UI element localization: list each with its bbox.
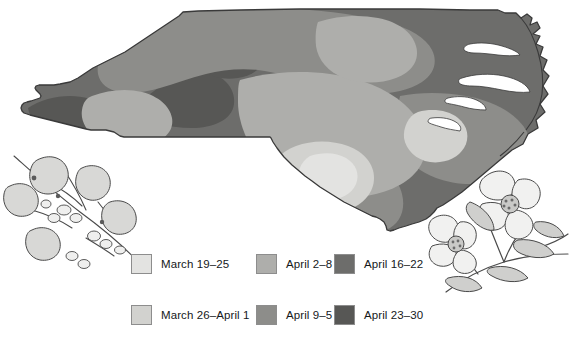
legend-item-march-26-april-1: March 26–April 1 [131, 305, 250, 325]
legend-item-april-16-22: April 16–22 [334, 254, 423, 274]
blossom [115, 246, 126, 254]
blossom-center [501, 195, 519, 213]
leaf [30, 157, 69, 194]
blossom [48, 214, 60, 223]
legend-item-april-9-15: April 9–5 [256, 305, 332, 325]
leaf [487, 266, 528, 281]
legend-swatch [131, 254, 152, 274]
leaf [102, 201, 137, 235]
blossom [66, 252, 78, 261]
legend-label: March 19–25 [161, 258, 229, 270]
leaf [26, 228, 61, 261]
leaf [76, 166, 111, 201]
legend-label: March 26–April 1 [161, 309, 250, 321]
blossom [78, 260, 90, 269]
legend-label: April 16–22 [364, 258, 423, 270]
legend-label: April 2–8 [286, 258, 332, 270]
legend-item-march-19-25: March 19–25 [131, 254, 229, 274]
legend-swatch [256, 254, 277, 274]
legend-label: April 23–30 [364, 309, 423, 321]
legend-label: April 9–5 [286, 309, 332, 321]
blossom [100, 240, 112, 249]
legend-swatch [334, 305, 355, 325]
blossom [41, 200, 51, 208]
leaf [514, 240, 555, 258]
legend-swatch [334, 254, 355, 274]
legend-item-april-2-8: April 2–8 [256, 254, 332, 274]
legend-item-april-23-30: April 23–30 [334, 305, 423, 325]
blossom-center [448, 236, 464, 252]
spring-arrival-map-page: March 19–25 March 26–April 1 April 2–8 A… [0, 0, 573, 345]
legend-swatch [131, 305, 152, 325]
leaf [4, 184, 39, 217]
blossom [70, 214, 82, 223]
map-legend: March 19–25 March 26–April 1 April 2–8 A… [131, 250, 441, 338]
blossom [88, 231, 101, 241]
band-march-19-25 [298, 153, 357, 200]
leaf [446, 276, 482, 291]
dogwood-branch-illustration [418, 162, 573, 297]
blossom [57, 205, 71, 215]
legend-swatch [256, 305, 277, 325]
leaf [534, 222, 564, 238]
